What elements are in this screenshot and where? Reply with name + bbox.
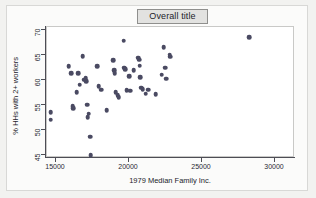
y-tick-mark (41, 129, 45, 130)
x-tick-label: 15000 (45, 163, 64, 170)
y-tick-mark (41, 29, 45, 30)
x-tick-label: 30000 (264, 163, 283, 170)
y-axis-line (45, 26, 46, 158)
x-tick-mark (55, 158, 56, 162)
x-tick-mark (128, 158, 129, 162)
plot-area (46, 26, 294, 157)
y-tick-mark (41, 154, 45, 155)
y-tick-label: 45 (35, 154, 42, 162)
x-tick-label: 20000 (118, 163, 137, 170)
y-tick-mark (41, 104, 45, 105)
y-tick-mark (41, 79, 45, 80)
x-tick-mark (201, 158, 202, 162)
overall-title-box: Overall title (137, 9, 208, 24)
page-title: Overall title (149, 12, 195, 21)
y-tick-label: 70 (35, 29, 42, 37)
x-tick-mark (274, 158, 275, 162)
x-tick-label: 25000 (191, 163, 210, 170)
x-axis-line (45, 157, 295, 158)
y-tick-label: 60 (35, 79, 42, 87)
y-tick-mark (41, 54, 45, 55)
y-tick-label: 55 (35, 104, 42, 112)
x-axis-title: 1979 Median Family Inc. (46, 177, 294, 185)
scatter-plot-figure: Overall title 455055606570 1500020000250… (0, 0, 316, 198)
y-tick-label: 50 (35, 129, 42, 137)
y-tick-label: 65 (35, 54, 42, 62)
y-axis-title: % HHs with 2+ workers (12, 44, 20, 148)
